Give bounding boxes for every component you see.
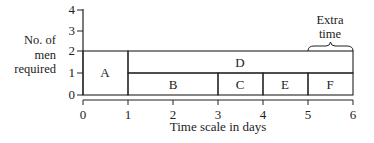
svg-text:Extra: Extra (316, 13, 344, 27)
svg-text:6: 6 (350, 107, 357, 122)
y-tick-0: 0 (69, 87, 76, 102)
y-tick-1: 1 (69, 65, 76, 80)
svg-text:1: 1 (125, 107, 132, 122)
x-axis-label: Time scale in days (170, 119, 267, 134)
y-ticks (77, 10, 83, 95)
task-f-label: F (326, 77, 333, 92)
svg-text:5: 5 (305, 107, 312, 122)
extra-time-brace (308, 42, 353, 51)
svg-text:men: men (34, 48, 56, 62)
svg-text:required: required (14, 62, 56, 76)
svg-text:No. of: No. of (24, 33, 57, 47)
svg-text:time: time (319, 27, 342, 41)
x-ticks (83, 100, 353, 105)
extra-time-annotation: Extra time (316, 13, 344, 41)
task-d-label: D (235, 55, 244, 70)
resource-histogram: 4 3 2 1 0 No. of men required A B C E F … (0, 0, 374, 143)
y-tick-2: 2 (69, 43, 76, 58)
y-tick-labels: 4 3 2 1 0 (69, 2, 76, 102)
y-tick-4: 4 (69, 2, 76, 17)
task-boxes (83, 51, 353, 95)
y-tick-3: 3 (69, 23, 76, 38)
task-b-label: B (169, 77, 178, 92)
task-e-label: E (281, 77, 289, 92)
y-axis-label: No. of men required (14, 33, 56, 76)
task-c-label: C (236, 77, 245, 92)
task-a-label: A (100, 65, 110, 80)
svg-text:0: 0 (80, 107, 87, 122)
